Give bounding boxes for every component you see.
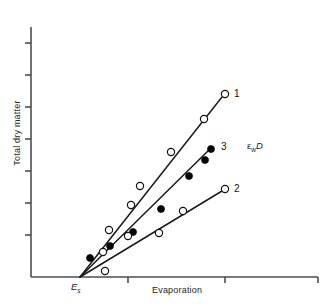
- x-axis-title: Evaporation: [152, 285, 202, 295]
- data-point-series-2-2: [155, 229, 162, 236]
- data-point-series-1-6: [221, 90, 228, 97]
- data-point-series-3-5: [202, 157, 209, 164]
- data-point-series-3-4: [186, 173, 193, 180]
- data-point-series-1-5: [200, 115, 207, 122]
- chart-figure: Total dry matter Evaporation Es 1 3 2 εw…: [0, 0, 330, 308]
- series-label-2: 2: [234, 183, 240, 194]
- d-symbol: D: [256, 140, 263, 151]
- data-point-series-2-1: [124, 232, 131, 239]
- x-axis-tick-label-es: Es: [71, 281, 81, 294]
- series-markers-group: [87, 90, 229, 274]
- data-point-series-1-4: [167, 148, 174, 155]
- data-point-series-2-0: [101, 267, 108, 274]
- data-point-series-1-2: [127, 201, 134, 208]
- data-point-series-1-3: [136, 182, 143, 189]
- y-axis-title: Total dry matter: [12, 83, 22, 183]
- data-point-series-2-3: [179, 207, 186, 214]
- series-label-1: 1: [234, 88, 240, 99]
- data-point-series-3-1: [107, 243, 114, 250]
- x-axis-ticks: [128, 277, 318, 283]
- data-point-series-3-3: [158, 206, 165, 213]
- data-point-series-3-0: [87, 255, 94, 262]
- y-axis-ticks: [25, 43, 31, 235]
- data-point-series-2-4: [221, 185, 228, 192]
- epsilon-w-d-annotation: εwD: [247, 140, 263, 153]
- data-point-series-3-6: [208, 146, 215, 153]
- data-point-series-1-1: [105, 226, 112, 233]
- series-line-3: [80, 148, 211, 277]
- series-label-3: 3: [221, 141, 227, 152]
- series-line-2: [80, 191, 222, 277]
- plot-area: [0, 0, 330, 308]
- data-point-series-1-0: [99, 248, 106, 255]
